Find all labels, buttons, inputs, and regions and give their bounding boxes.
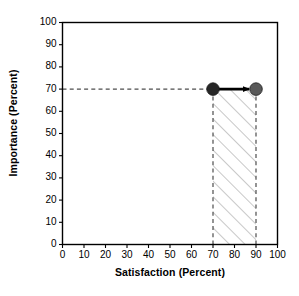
- plot-area: [0, 0, 299, 296]
- hatched-region: [213, 89, 256, 244]
- chart-container: Importance (Percent) Satisfaction (Perce…: [0, 0, 299, 296]
